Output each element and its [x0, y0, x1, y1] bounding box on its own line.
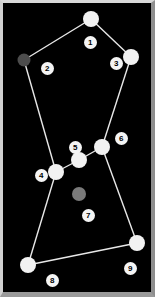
graph-edge: [28, 172, 56, 265]
graph-node-5[interactable]: [71, 152, 87, 168]
node-label-3: 3: [110, 57, 123, 70]
node-label-4: 4: [35, 169, 48, 182]
graph-node-1[interactable]: [83, 11, 99, 27]
graph-edge: [28, 243, 137, 265]
graph-node-8[interactable]: [20, 257, 36, 273]
node-label-7: 7: [82, 209, 95, 222]
graph-node-7[interactable]: [72, 187, 86, 201]
node-label-5: 5: [69, 141, 82, 154]
graph-node-3[interactable]: [123, 49, 139, 65]
graph-edge: [91, 19, 131, 57]
node-label-9: 9: [124, 262, 137, 275]
graph-node-9[interactable]: [129, 235, 145, 251]
graph-edge: [24, 60, 56, 172]
graph-edge: [24, 19, 91, 60]
diagram-frame: 123456789: [0, 0, 155, 297]
graph-node-2[interactable]: [18, 54, 31, 67]
node-label-6: 6: [115, 132, 128, 145]
graph-node-6[interactable]: [94, 139, 110, 155]
node-label-1: 1: [84, 36, 97, 49]
graph-node-4[interactable]: [48, 164, 64, 180]
graph-edge: [102, 147, 137, 243]
node-label-8: 8: [46, 274, 59, 287]
node-label-2: 2: [41, 62, 54, 75]
